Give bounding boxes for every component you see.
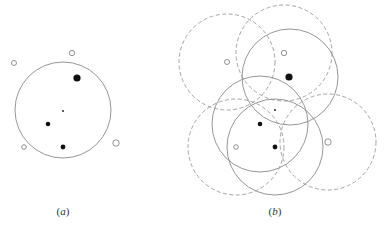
open-data-point xyxy=(281,50,286,55)
panel-a-label: (a) xyxy=(57,205,70,217)
solid-neighborhood-circle xyxy=(15,62,111,158)
filled-data-point xyxy=(46,122,51,127)
open-data-point xyxy=(225,60,230,65)
panel-a xyxy=(12,50,120,158)
open-data-point xyxy=(12,61,17,66)
panel-b xyxy=(179,5,376,195)
panel-b-label: (b) xyxy=(269,205,282,217)
open-data-point xyxy=(113,140,119,146)
filled-data-point xyxy=(62,110,64,112)
filled-data-point xyxy=(258,122,263,127)
filled-data-point xyxy=(73,74,80,81)
filled-data-point xyxy=(273,145,278,150)
panel-a-label-text: (a) xyxy=(57,205,70,217)
open-data-point xyxy=(22,145,27,150)
panel-b-label-text: (b) xyxy=(269,205,282,217)
filled-data-point xyxy=(285,73,292,80)
filled-data-point xyxy=(274,109,276,111)
filled-data-point xyxy=(61,145,66,150)
open-data-point xyxy=(325,139,331,145)
open-data-point xyxy=(234,145,239,150)
open-data-point xyxy=(69,50,74,55)
neighborhood-diagram xyxy=(0,0,388,229)
